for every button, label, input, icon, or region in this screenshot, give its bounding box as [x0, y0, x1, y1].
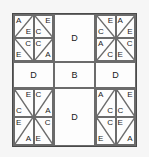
bottom-right-quadrant: ACECCEEA: [95, 88, 136, 146]
bottom-right-quadrant-bl-lower-letter: E: [98, 135, 103, 143]
cross-cell-top-middle-label: D: [71, 33, 78, 43]
top-right-quadrant-tl-upper-letter: E: [108, 17, 113, 25]
bottom-left-quadrant-bl-upper-letter: E: [16, 119, 21, 127]
puzzle-grid: AEECCECA D ECAEACCE D B D ECCAEACE D ACE…: [12, 13, 137, 147]
top-left-quadrant-tl-upper-letter: A: [16, 17, 21, 25]
bottom-right-quadrant-square-bl: CE: [96, 117, 116, 145]
top-left-quadrant-tr-upper-letter: E: [45, 17, 50, 25]
bottom-left-quadrant-br-upper-letter: C: [45, 119, 51, 127]
top-right-quadrant-bl-lower-letter: C: [107, 51, 113, 59]
top-left-quadrant-br-upper-letter: C: [36, 40, 42, 48]
bottom-left-quadrant-square-tl: EC: [14, 89, 34, 117]
top-left-quadrant-tr-lower-letter: C: [36, 28, 42, 36]
bottom-right-quadrant-tr-upper-letter: E: [127, 91, 132, 99]
bottom-right-quadrant-tl-lower-letter: C: [107, 107, 113, 115]
top-left-quadrant: AEECCECA: [13, 14, 54, 62]
top-right-quadrant-tr-lower-letter: E: [127, 28, 132, 36]
cross-cell-bottom-middle: D: [54, 88, 95, 146]
bottom-right-quadrant-bl-upper-letter: C: [107, 119, 113, 127]
top-right-quadrant-bl-upper-letter: A: [98, 40, 103, 48]
bottom-left-quadrant-square-tr: CA: [34, 89, 54, 117]
top-left-quadrant-tl-lower-letter: E: [26, 28, 31, 36]
bottom-left-quadrant-tr-lower-letter: A: [45, 107, 50, 115]
bottom-left-quadrant: ECCAEACE: [13, 88, 54, 146]
top-right-quadrant-tl-lower-letter: C: [98, 28, 104, 36]
cross-cell-center-label: B: [71, 70, 77, 80]
cross-cell-middle-right: D: [95, 62, 136, 88]
top-left-quadrant-square-tl: AE: [14, 15, 34, 38]
top-left-quadrant-square-bl: CE: [14, 38, 34, 61]
bottom-left-quadrant-tr-upper-letter: C: [36, 91, 42, 99]
top-right-quadrant-br-lower-letter: E: [118, 51, 123, 59]
cross-cell-middle-right-label: D: [112, 70, 119, 80]
top-right-quadrant-square-tl: EC: [96, 15, 116, 38]
bottom-left-quadrant-square-br: CE: [34, 117, 54, 145]
cross-cell-middle-left: D: [13, 62, 54, 88]
bottom-right-quadrant-square-br: EA: [116, 117, 136, 145]
bottom-left-quadrant-bl-lower-letter: A: [26, 135, 31, 143]
bottom-right-quadrant-br-lower-letter: A: [127, 135, 132, 143]
cross-cell-bottom-middle-label: D: [71, 112, 78, 122]
top-right-quadrant-square-br: CE: [116, 38, 136, 61]
bottom-right-quadrant-tr-lower-letter: C: [118, 107, 124, 115]
bottom-left-quadrant-tl-lower-letter: C: [16, 107, 22, 115]
top-right-quadrant-tr-upper-letter: A: [118, 17, 123, 25]
top-right-quadrant-square-bl: AC: [96, 38, 116, 61]
bottom-left-quadrant-tl-upper-letter: E: [26, 91, 31, 99]
top-right-quadrant-br-upper-letter: C: [127, 40, 133, 48]
bottom-right-quadrant-tl-upper-letter: A: [98, 91, 103, 99]
top-left-quadrant-bl-lower-letter: E: [16, 51, 21, 59]
bottom-left-quadrant-square-bl: EA: [14, 117, 34, 145]
top-left-quadrant-square-tr: EC: [34, 15, 54, 38]
bottom-right-quadrant-br-upper-letter: E: [118, 119, 123, 127]
bottom-right-quadrant-square-tr: EC: [116, 89, 136, 117]
cross-cell-middle-left-label: D: [30, 70, 37, 80]
cross-cell-center: B: [54, 62, 95, 88]
bottom-right-quadrant-square-tl: AC: [96, 89, 116, 117]
figure-canvas: AEECCECA D ECAEACCE D B D ECCAEACE D ACE…: [0, 0, 149, 157]
cross-cell-top-middle: D: [54, 14, 95, 62]
top-left-quadrant-square-br: CA: [34, 38, 54, 61]
top-right-quadrant: ECAEACCE: [95, 14, 136, 62]
top-left-quadrant-bl-upper-letter: C: [25, 40, 31, 48]
top-right-quadrant-square-tr: AE: [116, 15, 136, 38]
top-left-quadrant-br-lower-letter: A: [45, 51, 50, 59]
bottom-left-quadrant-br-lower-letter: E: [36, 135, 41, 143]
